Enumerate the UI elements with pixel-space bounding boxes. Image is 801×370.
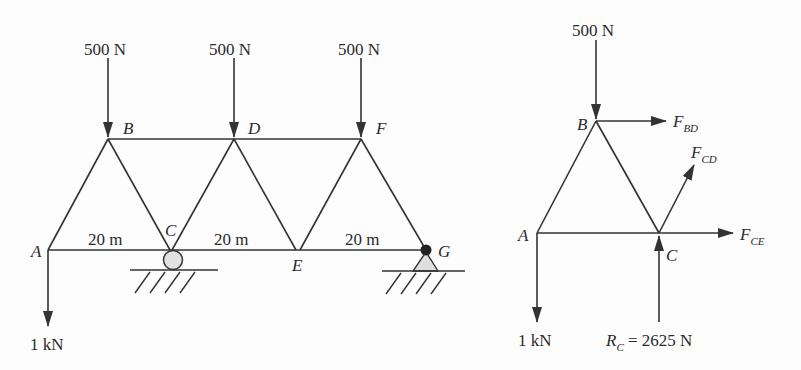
force-label-fbd: FBD	[673, 113, 698, 130]
truss-figure: 500 N 500 N 500 N 1 kN B D F A C E G 20 …	[0, 0, 801, 370]
pin-support-g	[382, 245, 465, 295]
fbd-member-ab	[537, 121, 596, 233]
node-label-e: E	[292, 257, 302, 274]
fbd-members	[537, 121, 659, 233]
fbd-load-label-b: 500 N	[572, 22, 614, 39]
roller-support-c	[130, 251, 218, 294]
load-label-f: 500 N	[338, 41, 380, 58]
fbd-member-bc	[596, 121, 659, 233]
span-label-ce: 20 m	[214, 231, 248, 248]
node-label-f: F	[376, 120, 386, 137]
load-label-a: 1 kN	[30, 336, 64, 353]
fbd-node-label-c: C	[666, 247, 677, 264]
reaction-label-c: RC = 2625 N	[606, 332, 692, 349]
load-label-b: 500 N	[84, 41, 126, 58]
node-label-a: A	[31, 243, 41, 260]
fbd-load-label-a: 1 kN	[518, 332, 552, 349]
fbd-node-label-a: A	[518, 227, 528, 244]
node-label-b: B	[123, 120, 133, 137]
force-arrow-fcd	[659, 165, 694, 233]
span-label-eg: 20 m	[345, 231, 379, 248]
node-label-g: G	[438, 243, 450, 260]
load-label-d: 500 N	[209, 41, 251, 58]
fbd-node-label-b: B	[577, 116, 587, 133]
span-label-ac: 20 m	[88, 231, 122, 248]
force-label-fcd: FCD	[691, 144, 717, 161]
node-label-d: D	[248, 120, 260, 137]
fbd-force-arrows	[537, 40, 733, 322]
force-label-fce: FCE	[740, 226, 764, 243]
node-label-c: C	[165, 222, 176, 239]
